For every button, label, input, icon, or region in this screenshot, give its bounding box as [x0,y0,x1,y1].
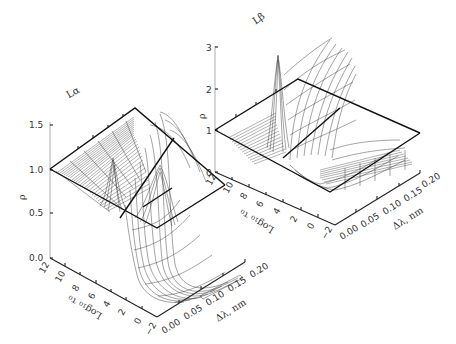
logtau-axis-left [50,258,157,317]
logtau-tick-right-10: 10 [221,180,236,195]
logtau-tick-left-8: 8 [70,283,82,293]
logtau-tick-right-2: 2 [288,214,300,224]
logtau-tick-right-4: 4 [271,206,283,216]
dlambda-tick-left-4: 0.20 [248,260,271,279]
logtau-tick-left-neg2: −2 [143,320,158,337]
logtau-tick-right-neg2: −2 [319,224,334,241]
dlambda-tick-left-1: 0.05 [182,303,204,322]
panel-lalpha: Lα 1.5 1.0 0.5 0.0 ρ [16,84,270,337]
rho-tick-left-2: 1.0 [29,165,44,175]
rho-axis-title-left: ρ [16,194,27,200]
logtau-tick-left-10: 10 [53,269,68,284]
logtau-tick-left-6: 6 [86,291,98,301]
logtau-tick-left-0: 0 [132,316,144,326]
figure-canvas: Lα 1.5 1.0 0.5 0.0 ρ [0,0,456,344]
dlambda-tick-right-1: 0.05 [359,211,381,230]
rho-tick-right-1: 1 [206,126,212,136]
rho-tick-right-2: 2 [206,85,212,95]
logtau-tick-left-2: 2 [116,307,128,317]
rho-tick-right-3: 3 [206,43,212,53]
logtau-tick-right-6: 6 [254,199,266,209]
dlambda-tick-right-4: 0.20 [420,170,443,189]
logtau-axis-title-right: Log₁₀ τ₀ [237,207,275,236]
reference-plane-right-back [215,79,420,133]
logtau-tick-right-8: 8 [238,191,250,201]
rho-tick-left-1: 1.5 [29,120,43,130]
panel-lbeta: Lβ 3 2 1 0 ρ 12 [196,10,442,242]
panel-label-lbeta: Lβ [250,10,267,26]
dlambda-tick-left-0: 0.00 [160,316,183,335]
dlambda-tick-right-2: 0.10 [381,197,404,216]
rho-ticks-right [215,47,218,172]
logtau-axis-title-left: Log₁₀ τ₀ [65,293,103,322]
logtau-axis-right [215,172,335,225]
dlambda-tick-right-0: 0.00 [338,222,361,241]
panel-label-lalpha: Lα [64,84,81,100]
rho-ticks-left [50,125,53,258]
surface-mesh-right [228,38,412,190]
logtau-tick-right-0: 0 [305,221,317,231]
rho-tick-left-3: 0.5 [29,208,43,218]
logtau-tick-left-4: 4 [101,299,113,309]
dlambda-tick-left-3: 0.15 [226,275,248,294]
dlambda-tick-right-3: 0.15 [402,185,424,204]
rho-axis-title-right: ρ [196,113,207,119]
